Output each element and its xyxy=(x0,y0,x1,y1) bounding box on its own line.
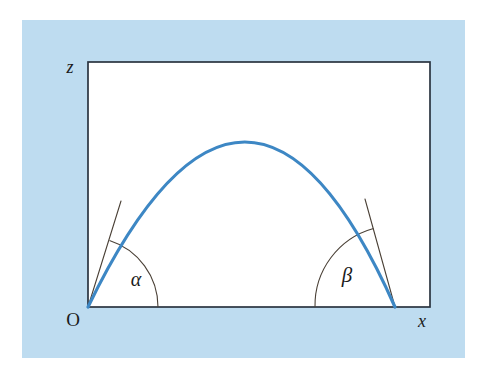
x-axis-label: x xyxy=(417,311,426,331)
angle-beta-label: β xyxy=(341,263,353,287)
origin-label: O xyxy=(66,309,80,330)
z-axis-label: z xyxy=(65,57,73,77)
angle-alpha-label: α xyxy=(131,268,142,290)
figure-container: z x O α β xyxy=(0,0,487,378)
trajectory-diagram: z x O α β xyxy=(0,0,487,378)
